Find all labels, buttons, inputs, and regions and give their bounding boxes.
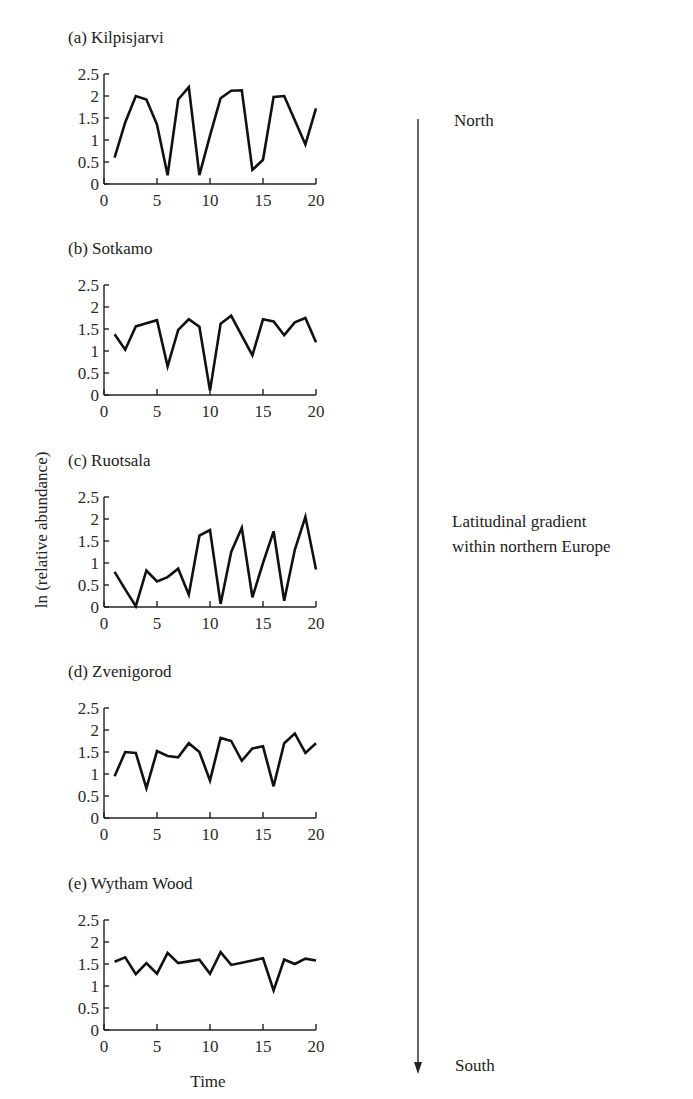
panel-title: (d) Zvenigorod xyxy=(68,662,172,681)
y-tick-label: 2 xyxy=(91,510,100,529)
data-series-line xyxy=(115,952,316,990)
y-tick-label: 0 xyxy=(91,598,100,617)
x-tick-label: 0 xyxy=(100,825,109,844)
x-tick-label: 5 xyxy=(153,191,162,210)
y-tick-label: 1.5 xyxy=(78,109,99,128)
y-tick-label: 0 xyxy=(91,175,100,194)
chart-panel: (b) Sotkamo00.511.522.505101520 xyxy=(68,239,325,421)
y-tick-label: 2 xyxy=(91,933,100,952)
x-tick-label: 5 xyxy=(153,825,162,844)
y-tick-label: 1 xyxy=(91,554,100,573)
panel-title: (e) Wytham Wood xyxy=(68,874,193,893)
y-tick-label: 0.5 xyxy=(78,364,99,383)
y-tick-label: 1 xyxy=(91,977,100,996)
x-tick-label: 10 xyxy=(202,402,219,421)
north-label: North xyxy=(454,111,494,130)
chart-panel: (e) Wytham Wood00.511.522.505101520 xyxy=(68,874,325,1056)
chart-panel: (c) Ruotsala00.511.522.505101520 xyxy=(68,451,325,633)
panels: (a) Kilpisjarvi00.511.522.505101520(b) S… xyxy=(68,28,325,1056)
figure: (a) Kilpisjarvi00.511.522.505101520(b) S… xyxy=(0,0,693,1099)
y-tick-label: 1.5 xyxy=(78,743,99,762)
y-tick-label: 0.5 xyxy=(78,576,99,595)
chart-panel: (a) Kilpisjarvi00.511.522.505101520 xyxy=(68,28,325,210)
x-tick-label: 20 xyxy=(308,1037,325,1056)
y-tick-label: 1 xyxy=(91,765,100,784)
x-tick-label: 20 xyxy=(308,614,325,633)
panel-title: (b) Sotkamo xyxy=(68,239,153,258)
x-tick-label: 15 xyxy=(255,614,272,633)
x-tick-label: 5 xyxy=(153,1037,162,1056)
y-tick-label: 1 xyxy=(91,342,100,361)
x-tick-label: 0 xyxy=(100,402,109,421)
x-tick-label: 10 xyxy=(202,614,219,633)
y-tick-label: 0 xyxy=(91,386,100,405)
x-tick-label: 10 xyxy=(202,825,219,844)
y-tick-label: 1.5 xyxy=(78,320,99,339)
y-tick-label: 2 xyxy=(91,721,100,740)
x-tick-label: 20 xyxy=(308,825,325,844)
x-tick-label: 15 xyxy=(255,402,272,421)
panel-title: (c) Ruotsala xyxy=(68,451,151,470)
x-tick-label: 10 xyxy=(202,191,219,210)
latitude-arrow xyxy=(414,119,422,1074)
y-tick-label: 0 xyxy=(91,809,100,828)
data-series-line xyxy=(115,87,316,175)
panel-title: (a) Kilpisjarvi xyxy=(68,28,164,47)
x-tick-label: 5 xyxy=(153,614,162,633)
y-tick-label: 2.5 xyxy=(78,65,99,84)
y-tick-label: 0 xyxy=(91,1021,100,1040)
x-tick-label: 15 xyxy=(255,825,272,844)
gradient-caption-line2: within northern Europe xyxy=(452,537,611,556)
y-tick-label: 0.5 xyxy=(78,153,99,172)
x-tick-label: 20 xyxy=(308,402,325,421)
x-tick-label: 15 xyxy=(255,1037,272,1056)
data-series-line xyxy=(115,316,316,391)
x-tick-label: 0 xyxy=(100,1037,109,1056)
y-tick-label: 0.5 xyxy=(78,999,99,1018)
data-series-line xyxy=(115,517,316,606)
x-axis-label: Time xyxy=(190,1072,225,1091)
y-tick-label: 2 xyxy=(91,87,100,106)
y-tick-label: 2 xyxy=(91,298,100,317)
x-tick-label: 5 xyxy=(153,402,162,421)
y-tick-label: 2.5 xyxy=(78,488,99,507)
x-tick-label: 20 xyxy=(308,191,325,210)
y-tick-label: 1 xyxy=(91,131,100,150)
y-tick-label: 1.5 xyxy=(78,955,99,974)
chart-panel: (d) Zvenigorod00.511.522.505101520 xyxy=(68,662,325,844)
y-tick-label: 2.5 xyxy=(78,699,99,718)
x-tick-label: 0 xyxy=(100,614,109,633)
gradient-caption-line1: Latitudinal gradient xyxy=(452,512,587,531)
x-tick-label: 0 xyxy=(100,191,109,210)
y-tick-label: 2.5 xyxy=(78,276,99,295)
y-tick-label: 0.5 xyxy=(78,787,99,806)
y-tick-label: 1.5 xyxy=(78,532,99,551)
y-axis-label: ln (relative abundance) xyxy=(32,452,51,609)
x-tick-label: 15 xyxy=(255,191,272,210)
south-label: South xyxy=(455,1056,495,1075)
y-tick-label: 2.5 xyxy=(78,911,99,930)
x-tick-label: 10 xyxy=(202,1037,219,1056)
data-series-line xyxy=(115,734,316,789)
arrow-down-icon xyxy=(414,1062,422,1074)
